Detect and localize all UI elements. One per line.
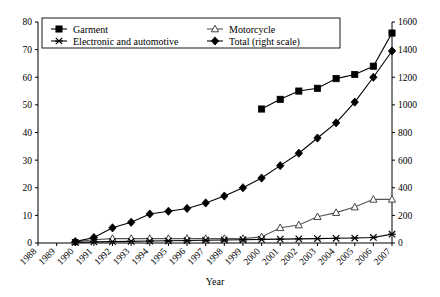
y-tick-label-left: 80 bbox=[23, 17, 33, 27]
y-tick-label-right: 1400 bbox=[398, 45, 417, 55]
x-tick-label: 2001 bbox=[260, 246, 281, 267]
y-tick-label-left: 40 bbox=[23, 128, 33, 138]
data-point-garment bbox=[258, 106, 264, 112]
legend-label-garment: Garment bbox=[73, 24, 108, 35]
data-point-garment bbox=[314, 85, 320, 91]
y-tick-label-left: 70 bbox=[23, 45, 33, 55]
x-tick-label: 2006 bbox=[353, 246, 374, 267]
x-tick-label: 2005 bbox=[335, 246, 356, 267]
x-tick-label: 2007 bbox=[372, 246, 393, 267]
x-tick-label: 2000 bbox=[241, 246, 262, 267]
data-point-total-right-scale bbox=[146, 210, 153, 218]
data-point-total-right-scale bbox=[165, 207, 172, 215]
data-point-total-right-scale bbox=[258, 174, 265, 182]
y-tick-label-left: 10 bbox=[23, 211, 33, 221]
data-point-total-right-scale bbox=[109, 224, 116, 232]
y-tick-label-right: 200 bbox=[398, 211, 413, 221]
x-tick-label: 1993 bbox=[111, 246, 132, 267]
x-axis-title: Year bbox=[206, 276, 225, 287]
data-point-total-right-scale bbox=[295, 149, 302, 157]
data-point-garment bbox=[389, 30, 395, 36]
y-tick-label-right: 1000 bbox=[398, 100, 417, 110]
data-point-garment bbox=[352, 71, 358, 77]
y-tick-label-right: 800 bbox=[398, 128, 413, 138]
data-point-garment bbox=[333, 76, 339, 82]
chart-container: 0102030405060708002004006008001000120014… bbox=[0, 0, 440, 297]
x-tick-label: 2004 bbox=[316, 246, 337, 267]
x-tick-label: 1996 bbox=[167, 246, 188, 267]
x-tick-label: 1990 bbox=[55, 246, 76, 267]
data-point-garment bbox=[296, 88, 302, 94]
x-tick-label: 2002 bbox=[279, 246, 300, 267]
legend-marker-filled-square bbox=[56, 26, 62, 32]
y-tick-label-right: 0 bbox=[398, 238, 403, 248]
y-tick-label-right: 600 bbox=[398, 156, 413, 166]
y-tick-label-right: 1600 bbox=[398, 17, 417, 27]
x-tick-label: 1989 bbox=[37, 246, 58, 267]
x-tick-label: 1998 bbox=[204, 246, 225, 267]
y-tick-label-right: 1200 bbox=[398, 73, 417, 83]
legend-label-total-right-scale: Total (right scale) bbox=[229, 36, 300, 48]
data-point-motorcycle bbox=[295, 221, 302, 228]
x-tick-label: 1991 bbox=[74, 246, 95, 267]
x-tick-label: 2003 bbox=[297, 246, 318, 267]
y-tick-label-left: 50 bbox=[23, 100, 33, 110]
x-tick-label: 1992 bbox=[92, 246, 113, 267]
series-line-motorcycle bbox=[75, 199, 392, 242]
data-point-garment bbox=[370, 63, 376, 69]
data-point-total-right-scale bbox=[221, 192, 228, 200]
data-point-total-right-scale bbox=[277, 162, 284, 170]
y-tick-label-left: 60 bbox=[23, 73, 33, 83]
x-tick-label: 1988 bbox=[18, 246, 39, 267]
data-point-total-right-scale bbox=[183, 204, 190, 212]
series-line-total-right-scale bbox=[75, 51, 392, 242]
data-point-total-right-scale bbox=[314, 134, 321, 142]
data-point-total-right-scale bbox=[202, 199, 209, 207]
data-point-total-right-scale bbox=[239, 184, 246, 192]
data-point-garment bbox=[277, 96, 283, 102]
x-tick-label: 1995 bbox=[148, 246, 169, 267]
line-chart: 0102030405060708002004006008001000120014… bbox=[0, 0, 440, 297]
y-tick-label-left: 20 bbox=[23, 183, 33, 193]
data-point-total-right-scale bbox=[127, 218, 134, 226]
legend-label-electronic-and-automotive: Electronic and automotive bbox=[73, 36, 179, 47]
x-tick-label: 1997 bbox=[186, 246, 207, 267]
y-tick-label-left: 30 bbox=[23, 156, 33, 166]
x-tick-label: 1999 bbox=[223, 246, 244, 267]
legend-label-motorcycle: Motorcycle bbox=[229, 24, 276, 35]
x-tick-label: 1994 bbox=[130, 246, 151, 267]
y-tick-label-right: 400 bbox=[398, 183, 413, 193]
